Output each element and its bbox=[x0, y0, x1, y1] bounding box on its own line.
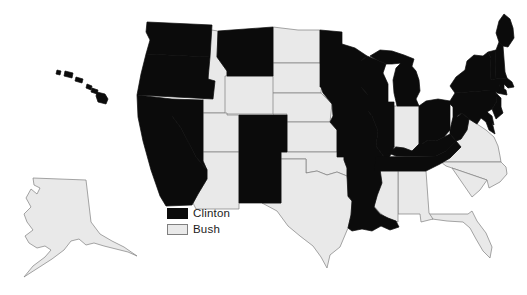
state-al bbox=[398, 171, 433, 222]
state-me bbox=[496, 14, 514, 47]
state-wy bbox=[225, 76, 274, 114]
legend-label-bush: Bush bbox=[193, 223, 220, 236]
state-fl bbox=[429, 211, 492, 258]
state-sd bbox=[273, 63, 323, 93]
states-group bbox=[24, 14, 514, 277]
state-in bbox=[394, 106, 419, 151]
state-co bbox=[239, 115, 287, 152]
state-ut bbox=[203, 113, 239, 152]
legend-label-clinton: Clinton bbox=[193, 207, 230, 220]
us-election-map bbox=[0, 0, 527, 295]
state-mt bbox=[217, 27, 273, 76]
state-nd bbox=[273, 27, 320, 63]
state-wa bbox=[146, 22, 212, 57]
legend-item-bush: Bush bbox=[167, 223, 230, 236]
state-nm bbox=[239, 152, 281, 203]
state-ks bbox=[287, 122, 337, 152]
election-map-figure: Clinton Bush bbox=[0, 0, 527, 295]
state-pa bbox=[450, 90, 497, 112]
legend-swatch-bush bbox=[167, 224, 188, 235]
state-hi bbox=[56, 70, 108, 104]
state-nh bbox=[495, 42, 507, 79]
legend-item-clinton: Clinton bbox=[167, 207, 230, 220]
state-or bbox=[137, 54, 215, 99]
map-legend: Clinton Bush bbox=[167, 207, 230, 236]
legend-swatch-clinton bbox=[167, 208, 188, 219]
state-ak bbox=[24, 178, 137, 277]
state-mn bbox=[320, 30, 367, 87]
state-ct bbox=[490, 84, 500, 92]
